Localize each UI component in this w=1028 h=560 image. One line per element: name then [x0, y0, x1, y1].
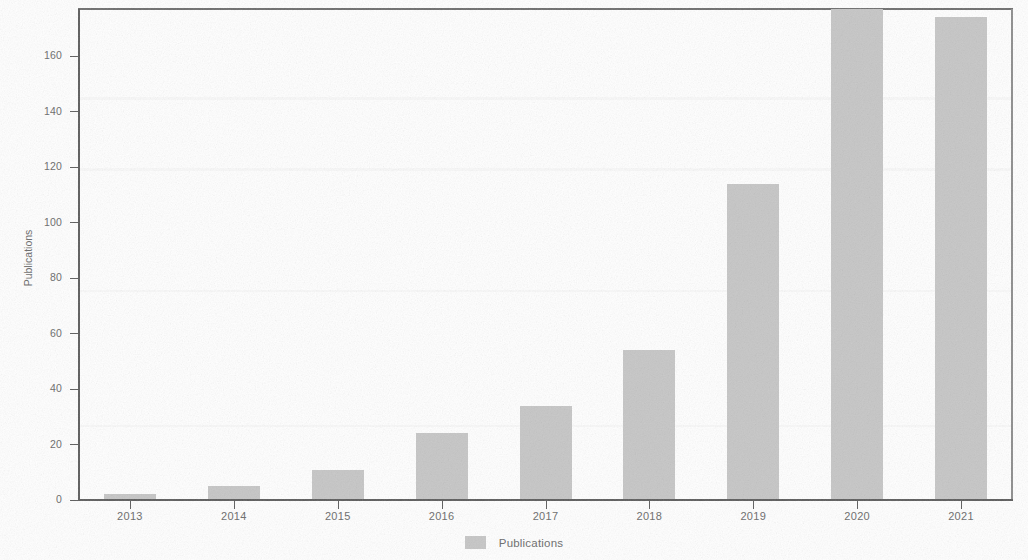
x-axis-tick-label: 2015 — [298, 510, 378, 522]
y-axis-tick-label: 140 — [22, 105, 62, 117]
x-axis-tick-label: 2017 — [506, 510, 586, 522]
x-axis-tick — [442, 501, 443, 509]
bar-2019 — [727, 184, 779, 500]
x-axis-tick-label: 2014 — [194, 510, 274, 522]
bars-group — [78, 9, 1013, 500]
y-axis-tick-label: 120 — [22, 160, 62, 172]
y-axis-tick-label: 100 — [22, 216, 62, 228]
y-axis-tick — [70, 111, 79, 112]
y-axis-line — [78, 9, 80, 501]
chart-legend: Publications — [0, 536, 1028, 549]
bar-2017 — [520, 406, 572, 500]
x-axis-tick-label: 2016 — [402, 510, 482, 522]
x-axis-tick-label: 2020 — [817, 510, 897, 522]
bar-2021 — [935, 17, 987, 500]
x-axis-tick — [857, 501, 858, 509]
bar-2018 — [623, 350, 675, 500]
x-axis-tick-label: 2019 — [713, 510, 793, 522]
y-axis-tick-label: 60 — [22, 327, 62, 339]
x-axis-tick — [753, 501, 754, 509]
y-axis-tick — [70, 444, 79, 445]
bar-2014 — [208, 486, 260, 500]
legend-label: Publications — [499, 537, 563, 549]
x-axis-tick — [234, 501, 235, 509]
x-axis-tick-label: 2018 — [609, 510, 689, 522]
y-axis-tick-label: 40 — [22, 382, 62, 394]
y-axis-tick — [70, 167, 79, 168]
y-axis-tick-label: 80 — [22, 271, 62, 283]
y-axis-tick-label: 0 — [22, 493, 62, 505]
legend-item: Publications — [465, 536, 563, 549]
y-axis-tick-label: 20 — [22, 438, 62, 450]
y-axis-tick — [70, 389, 79, 390]
y-axis-tick — [70, 500, 79, 501]
x-axis-tick — [338, 501, 339, 509]
bar-chart: Publications 020406080100120140160 20132… — [0, 0, 1028, 560]
legend-swatch-icon — [465, 536, 486, 549]
y-axis-tick — [70, 278, 79, 279]
y-axis-tick-label: 160 — [22, 49, 62, 61]
y-axis-tick — [70, 56, 79, 57]
x-axis-tick — [546, 501, 547, 509]
y-axis-tick — [70, 222, 79, 223]
bar-2015 — [312, 470, 364, 501]
x-axis-tick-label: 2021 — [921, 510, 1001, 522]
bar-2016 — [416, 433, 468, 500]
x-axis-tick-label: 2013 — [90, 510, 170, 522]
x-axis-tick — [649, 501, 650, 509]
x-axis-tick — [961, 501, 962, 509]
y-axis-tick — [70, 333, 79, 334]
x-axis-tick — [130, 501, 131, 509]
bar-2020 — [831, 9, 883, 500]
